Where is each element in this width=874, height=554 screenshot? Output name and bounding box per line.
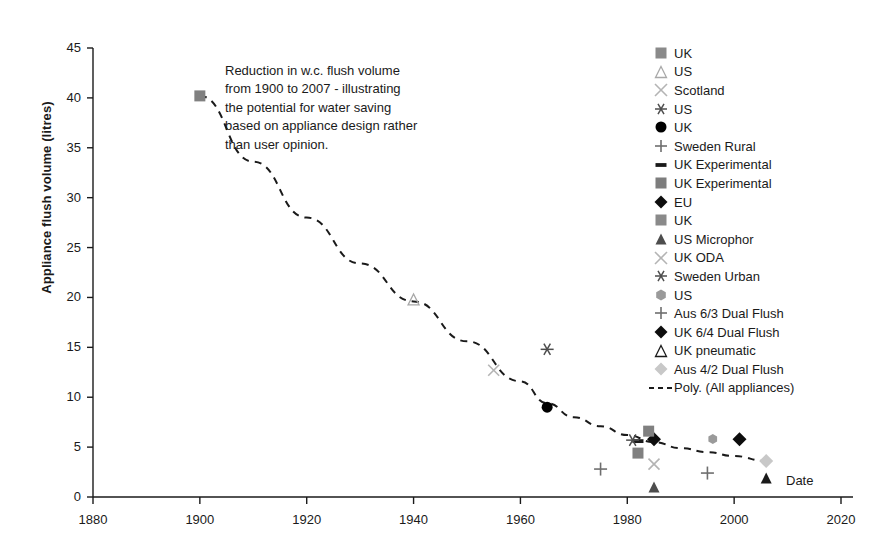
annotation-line: based on appliance design rather (225, 117, 525, 135)
legend-item-label: Scotland (674, 84, 725, 97)
annotation-line: the potential for water saving (225, 99, 525, 117)
legend-item-label: UK ODA (674, 251, 724, 264)
triangle-up-open-icon (648, 63, 674, 82)
legend-item-label: US Microphor (674, 233, 753, 246)
legend-item[interactable]: US Microphor (648, 230, 868, 249)
y-axis-tick-label: 25 (41, 241, 81, 254)
plus-glyph (655, 140, 667, 152)
asterisk-icon (648, 100, 674, 119)
diamond-icon (648, 193, 674, 212)
square-icon (648, 174, 674, 193)
legend-item-label: US (674, 65, 692, 78)
legend-item[interactable]: UK pneumatic (648, 342, 868, 361)
data-point-uk-0 (194, 90, 205, 101)
chart-root: Appliance flush volume (litres) Date 454… (0, 0, 874, 554)
legend-item-label: UK (674, 214, 692, 227)
legend-item-label: Sweden Rural (674, 140, 756, 153)
legend-item-label: UK Experimental (674, 158, 772, 171)
y-axis-tick-label: 15 (41, 340, 81, 353)
square-icon (648, 211, 674, 230)
triangle-up-glyph (656, 233, 667, 244)
diamond-glyph (655, 195, 668, 208)
legend-item[interactable]: US (648, 286, 868, 305)
annotation-line: Reduction in w.c. flush volume (225, 62, 525, 80)
data-point-scotland-2 (488, 365, 499, 376)
legend-item[interactable]: UK ODA (648, 249, 868, 268)
square-glyph (656, 215, 667, 226)
data-point-uk-6-4-dual-flush-15 (732, 432, 746, 446)
dash-glyph (656, 163, 667, 167)
diamond-glyph (655, 363, 668, 376)
legend-item-label: US (674, 289, 692, 302)
legend-item[interactable]: Aus 6/3 Dual Flush (648, 304, 868, 323)
asterisk-glyph (655, 271, 667, 281)
legend-item[interactable]: Aus 4/2 Dual Flush (648, 360, 868, 379)
legend-item-label: Poly. (All appliances) (674, 381, 794, 394)
data-point-us-3 (541, 344, 554, 355)
data-point-aus-4-2-dual-flush-17 (759, 454, 773, 468)
x-icon (648, 81, 674, 100)
legend-item[interactable]: UK Experimental (648, 174, 868, 193)
legend-item-label: UK Experimental (674, 177, 772, 190)
legend-item-label: UK pneumatic (674, 344, 756, 357)
y-axis-tick-label: 5 (41, 440, 81, 453)
square-glyph (656, 48, 667, 59)
dash-icon (648, 156, 674, 175)
legend-item[interactable]: EU (648, 193, 868, 212)
asterisk-glyph (655, 104, 667, 114)
legend-item[interactable]: Poly. (All appliances) (648, 379, 868, 398)
legend-item-label: Aus 6/3 Dual Flush (674, 307, 784, 320)
data-point-uk-oda-11 (649, 459, 660, 470)
x-glyph (655, 252, 667, 264)
x-axis-tick-label: 1960 (490, 513, 550, 526)
diamond-icon (648, 360, 674, 379)
triangle-up-open2-glyph (656, 345, 667, 356)
asterisk-icon (648, 267, 674, 286)
plus-icon (648, 137, 674, 156)
square-glyph (656, 178, 667, 189)
triangle-up-icon (648, 230, 674, 249)
legend-item[interactable]: Sweden Rural (648, 137, 868, 156)
x-axis-tick-label: 1920 (277, 513, 337, 526)
legend-item-label: EU (674, 196, 692, 209)
x-axis-tick-label: 1880 (63, 513, 123, 526)
y-axis-tick-label: 35 (41, 141, 81, 154)
hexagon-glyph (656, 289, 666, 300)
legend-item[interactable]: UK 6/4 Dual Flush (648, 323, 868, 342)
legend-item[interactable]: UK (648, 118, 868, 137)
annotation-line: from 1900 to 2007 - illustrating (225, 80, 525, 98)
legend-item-label: UK (674, 121, 692, 134)
y-axis-tick-label: 0 (41, 490, 81, 503)
circle-glyph (656, 122, 667, 133)
chart-legend: UKUSScotlandUSUKSweden RuralUK Experimen… (648, 44, 868, 397)
y-axis-tick-label: 10 (41, 390, 81, 403)
plus-icon (648, 304, 674, 323)
x-axis-tick-label: 1940 (384, 513, 444, 526)
annotation-line: than user opinion. (225, 136, 525, 154)
legend-item-label: UK (674, 47, 692, 60)
circle-icon (648, 118, 674, 137)
x-axis-tick-label: 2020 (811, 513, 871, 526)
data-point-aus-6-3-dual-flush-14 (701, 467, 714, 480)
legend-item-label: UK 6/4 Dual Flush (674, 326, 780, 339)
chart-annotation: Reduction in w.c. flush volumefrom 1900 … (225, 62, 525, 154)
plus-glyph (655, 307, 667, 319)
legend-item[interactable]: UK (648, 211, 868, 230)
legend-item-label: US (674, 103, 692, 116)
data-point-uk-pneumatic-16 (761, 473, 772, 484)
diamond-glyph (655, 325, 668, 338)
x-axis-tick-label: 1980 (597, 513, 657, 526)
x-glyph (655, 84, 667, 96)
legend-item[interactable]: US (648, 63, 868, 82)
legend-item-label: Aus 4/2 Dual Flush (674, 363, 784, 376)
x-icon (648, 249, 674, 268)
legend-item[interactable]: Sweden Urban (648, 267, 868, 286)
data-point-uk-4 (542, 402, 553, 413)
legend-item[interactable]: Scotland (648, 81, 868, 100)
legend-item[interactable]: UK Experimental (648, 156, 868, 175)
y-axis-tick-label: 45 (41, 41, 81, 54)
dashline-icon (648, 379, 674, 398)
data-point-uk-experimental-7 (632, 448, 643, 459)
legend-item[interactable]: UK (648, 44, 868, 63)
legend-item[interactable]: US (648, 100, 868, 119)
